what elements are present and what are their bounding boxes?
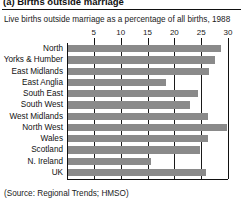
chart-row: South East (0, 89, 243, 100)
figure-source-note: (Source: Regional Trends; HMSO) (4, 188, 129, 199)
category-label: Scotland (0, 145, 63, 155)
x-axis-tick-label: 10 (116, 28, 125, 37)
chart-row: East Midlands (0, 66, 243, 77)
chart-row: Wales (0, 134, 243, 145)
x-axis-tick-label: 25 (197, 28, 206, 37)
category-label: Yorks & Humber (0, 55, 63, 65)
category-label: East Midlands (0, 67, 63, 77)
chart-row: East Anglia (0, 77, 243, 88)
bar (68, 169, 206, 176)
bar (68, 68, 209, 75)
x-axis-tick-label: 20 (170, 28, 179, 37)
chart-row: West Midlands (0, 111, 243, 122)
bar (68, 90, 198, 97)
bar (68, 56, 215, 63)
chart-row: UK (0, 167, 243, 178)
chart-row: Yorks & Humber (0, 55, 243, 66)
x-axis-tick-label: 5 (92, 28, 96, 37)
chart-row: North (0, 44, 243, 55)
chart-row: Scotland (0, 145, 243, 156)
category-label: West Midlands (0, 112, 63, 122)
bar (68, 135, 208, 142)
x-axis-tick-label: 30 (224, 28, 233, 37)
x-axis-line (67, 179, 228, 180)
bar (68, 124, 227, 131)
figure-births-outside-marriage: (a) Births outside marriage Live births … (0, 0, 243, 205)
bar (68, 79, 166, 86)
category-label: South West (0, 100, 63, 110)
chart-row: N. Ireland (0, 156, 243, 167)
bar (68, 146, 200, 153)
chart-row: South West (0, 100, 243, 111)
category-label: South East (0, 89, 63, 99)
bar (68, 45, 221, 52)
category-label: N. Ireland (0, 157, 63, 167)
bar (68, 101, 190, 108)
category-label: Wales (0, 134, 63, 144)
chart-row: North West (0, 122, 243, 133)
chart-plot-area: 51015202530NorthYorks & HumberEast Midla… (0, 0, 243, 205)
category-label: East Anglia (0, 78, 63, 88)
category-label: UK (0, 168, 63, 178)
category-label: North (0, 44, 63, 54)
bar (68, 113, 208, 120)
bar (68, 158, 151, 165)
category-label: North West (0, 123, 63, 133)
x-axis-tick-label: 15 (143, 28, 152, 37)
